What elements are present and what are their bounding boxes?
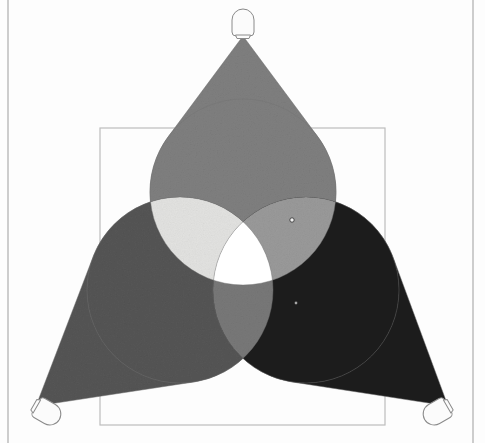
marker-top-right-rim [290, 218, 294, 222]
lamp-bulb [232, 9, 254, 36]
marker-right-field [295, 302, 298, 305]
color-mixing-figure [0, 0, 485, 443]
figure-canvas [0, 0, 485, 443]
lamp-top [232, 9, 254, 39]
lamp-aperture [236, 35, 251, 39]
